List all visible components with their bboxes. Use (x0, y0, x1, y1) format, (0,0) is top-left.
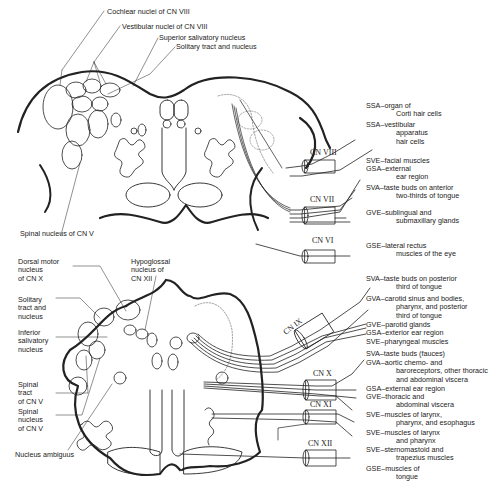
component-sva-taste-anterior: SVA–taste buds on anteriortwo-thirds of … (366, 184, 459, 201)
component-text: taste buds (fauces) (384, 349, 445, 358)
nerve-label-cn-viii: CN VIII (310, 148, 337, 157)
label-cochlear-nuclei: Cochlear nuclei of CN VIII (107, 8, 190, 16)
component-gva-aortic: GVA–aortic chemo- andbaroreceptors, othe… (366, 359, 488, 384)
component-text: pharynx, and esophagus (366, 418, 475, 427)
label-nucleus-ambiguus: Nucleus ambiguus (15, 451, 74, 459)
label-spinal-tract-cn-v: Spinaltractof CN V (18, 381, 43, 406)
component-code: GSA (366, 328, 381, 337)
label-line: CN XII (131, 274, 152, 283)
component-ssa-vestibular: SSA–vestibularapparatushair cells (366, 121, 428, 146)
component-sva-taste-posterior: SVA–taste buds on posteriorthird of tong… (366, 275, 457, 292)
component-text: two-thirds of tongue (366, 191, 459, 200)
component-gva-carotid: GVA–carotid sinus and bodies,pharynx, an… (366, 295, 468, 320)
component-text: third of tongue (366, 311, 442, 320)
component-text: Corti hair cells (366, 109, 442, 118)
label-line: of CN V (18, 397, 43, 406)
medulla-outline-right (166, 280, 263, 470)
nerve-label-cn-vi: CN VI (312, 236, 333, 245)
component-text: ear region (366, 172, 428, 181)
component-gsa-external-ear: GSA–externalear region (366, 165, 428, 182)
nerve-label-cn-vii: CN VII (310, 195, 334, 204)
nerve-label-cn-xii: CN XII (308, 439, 332, 448)
label-solitary-tract: Solitary tract and nucleus (176, 43, 257, 51)
component-ssa-corti: SSA–organ ofCorti hair cells (366, 102, 442, 119)
label-line: of CN V (18, 424, 43, 433)
label-solitary-tract-lower: Solitarytract andnucleus (18, 296, 46, 321)
label-inferior-salivatory: Inferiorsalivatorynucleus (18, 329, 48, 354)
component-code: SVA (366, 349, 380, 358)
label-hypoglossal-nucleus: Hypoglossalnucleus ofCN XII (131, 258, 170, 283)
label-dorsal-motor-nucleus: Dorsal motornucleusof CN X (18, 258, 59, 283)
pons-section (18, 11, 330, 235)
component-sve-larynx-pharynx: SVE–muscles of larynxand pharynx (366, 429, 440, 446)
component-text: third of tongue (366, 282, 442, 291)
component-text: trapezius muscles (366, 453, 454, 462)
pons-ventral-outline (100, 205, 268, 223)
component-gve-thoracic: GVE–thoracic andabdominal viscera (366, 393, 454, 410)
component-text: hair cells (366, 137, 424, 146)
component-text: pharyngeal muscles (384, 337, 448, 346)
component-gve-sublingual: GVE–sublingual andsubmaxillary glands (366, 209, 459, 226)
cn-vi-cylinder (302, 250, 335, 263)
component-sve-sternomastoid: SVE–sternomastoid andtrapezius muscles (366, 446, 454, 463)
label-vestibular-nuclei: Vestibular nuclei of CN VIII (122, 23, 208, 31)
label-spinal-nucleus-cn-v-lower: Spinalnucleusof CN V (18, 408, 43, 433)
label-line: nucleus (18, 345, 43, 354)
medulla-section (56, 266, 263, 475)
component-text: muscles of the eye (366, 249, 456, 258)
label-line: nucleus (18, 312, 43, 321)
component-text: and abdominal viscera (366, 375, 468, 384)
component-text: abdominal viscera (366, 400, 454, 409)
component-code: SVE (366, 337, 380, 346)
component-sve-larynx-esophagus: SVE–muscles of larynx,pharynx, and esoph… (366, 411, 475, 428)
component-text: tongue (366, 472, 418, 481)
label-line: of CN X (18, 274, 43, 283)
component-sve-pharyngeal: SVE–pharyngeal muscles (366, 338, 448, 346)
nerve-label-cn-xi: CN XI (310, 400, 332, 409)
component-text: submaxillary glands (366, 216, 459, 225)
label-spinal-nucleus-cn-v-upper: Spinal nucleus of CN V (20, 230, 94, 238)
component-gse-tongue: GSE–muscles oftongue (366, 465, 420, 482)
component-gse-lateral-rectus: GSE–lateral rectusmuscles of the eye (366, 242, 456, 259)
component-text: exterior ear region (385, 328, 443, 337)
nerve-label-cn-x: CN X (313, 369, 332, 378)
